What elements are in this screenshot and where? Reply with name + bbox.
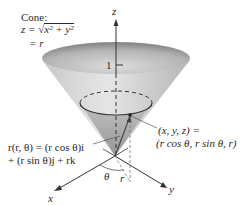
cone-radicand: x² + y² — [44, 23, 73, 35]
cone-equation-lhs: z = — [21, 23, 38, 35]
x-axis-label: x — [48, 192, 53, 204]
cone-equation: z = √x² + y² — [21, 23, 74, 35]
cone-title: Cone: — [21, 11, 47, 23]
y-axis-label: y — [169, 183, 174, 195]
z-tick-label: 1 — [106, 59, 112, 71]
theta-label: θ — [104, 170, 109, 182]
point-label-line2: (r cos θ, r sin θ, r) — [156, 137, 236, 149]
point-label-line1: (x, y, z) = — [158, 124, 200, 136]
cone-parametrization-figure: Cone: z = √x² + y² = r z 1 x y (x, y, z)… — [0, 0, 242, 206]
z-axis-label: z — [112, 5, 116, 17]
x-axis-arrow-icon — [54, 185, 62, 191]
z-axis-arrow-icon — [114, 19, 119, 26]
vector-label-line1: r(r, θ) = (r cos θ)i — [8, 141, 84, 153]
cone-equation-line2: = r — [29, 37, 43, 49]
radius-label: r — [120, 172, 124, 184]
y-axis-arrow-icon — [160, 182, 167, 188]
vector-label-line2: + (r sin θ)j + rk — [8, 154, 75, 166]
